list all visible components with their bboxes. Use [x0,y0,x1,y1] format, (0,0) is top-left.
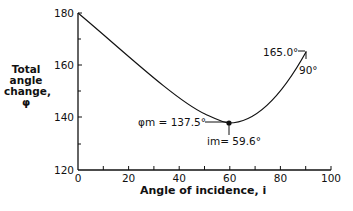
xtick-100: 100 [321,172,341,184]
ytick-140: 140 [54,111,74,123]
x-axis-label: Angle of incidence, i [140,184,266,197]
ytick-160: 160 [54,59,74,71]
xtick-0: 0 [75,172,82,184]
min-phi-annotation: φm = 137.5° [138,116,206,128]
chart-plot: 180 160 140 120 0 20 40 60 80 100 φm = 1… [0,0,353,211]
xtick-60: 60 [223,172,236,184]
xtick-40: 40 [173,172,186,184]
xtick-20: 20 [122,172,135,184]
min-i-annotation: im= 59.6° [207,135,261,147]
xtick-80: 80 [274,172,287,184]
ytick-120: 120 [54,164,74,176]
end-i-annotation: 90° [299,64,318,76]
end-phi-annotation: 165.0° [263,46,298,58]
data-curve [78,13,306,123]
ytick-180: 180 [54,7,74,19]
